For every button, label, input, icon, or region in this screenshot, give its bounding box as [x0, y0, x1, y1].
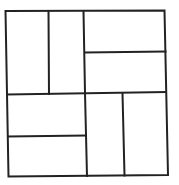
bottom-right-vertical-divider — [123, 93, 125, 176]
pinwheel-tiling-diagram — [0, 0, 179, 185]
middle-horizontal-line — [7, 92, 166, 95]
bottom-left-horizontal-divider — [8, 136, 86, 137]
top-left-vertical-divider — [49, 11, 50, 94]
top-right-horizontal-divider — [85, 52, 166, 53]
